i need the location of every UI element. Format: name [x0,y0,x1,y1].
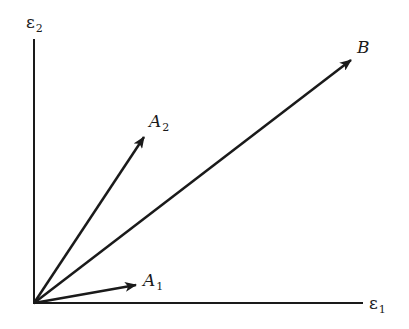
y-axis-label: ε2 [26,14,43,34]
vector-symbol: A [143,270,155,290]
vector-b-label: B [357,39,370,56]
vector-a2-arrow [34,137,144,303]
x-axis-label: ε1 [369,295,386,315]
subscript: 2 [36,22,43,35]
subscript: 1 [156,280,163,293]
vector-a2-label: A2 [149,113,169,133]
vector-symbol: A [149,111,161,131]
subscript: 1 [379,303,386,316]
diagram-graphic [0,0,409,329]
vector-b-arrow [34,60,351,303]
epsilon-symbol: ε [369,293,378,313]
vector-a1-arrow [34,285,136,303]
subscript: 2 [162,121,169,134]
vector-a1-label: A1 [143,272,163,292]
epsilon-symbol: ε [26,12,35,32]
vector-symbol: B [357,37,370,57]
vector-diagram: ε2 ε1 B A2 A1 [0,0,409,329]
